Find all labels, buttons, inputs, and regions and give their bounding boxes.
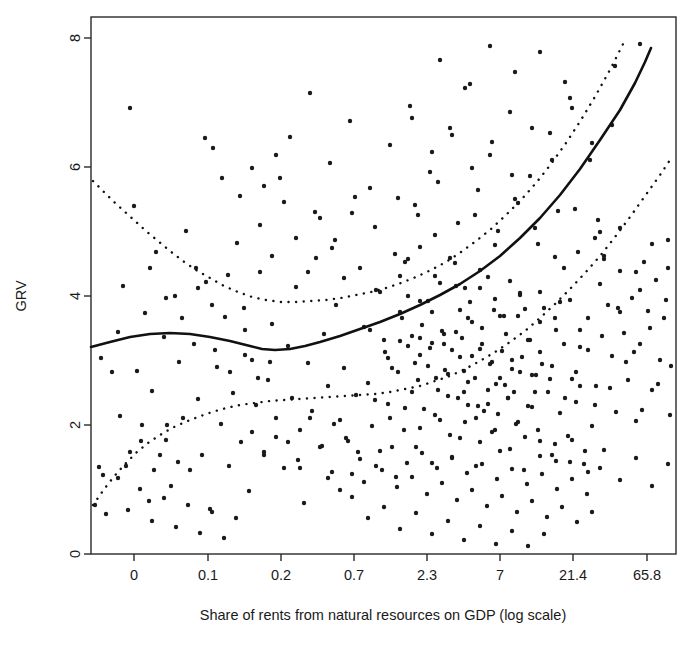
scatter-point [634,270,638,274]
scatter-point [413,361,417,365]
scatter-point [448,126,452,130]
scatter-point [538,50,542,54]
y-axis-title: GRV [13,280,29,311]
scatter-point [570,477,574,481]
y-axis-ticks [84,38,91,554]
scatter-point [147,499,151,503]
scatter-point [286,344,290,348]
scatter-point [192,342,196,346]
scatter-point [540,362,544,366]
scatter-point [513,70,517,74]
scatter-point [418,353,422,357]
scatter-point [342,366,346,370]
scatter-point [250,430,254,434]
scatter-point [486,402,490,406]
scatter-point [568,96,572,100]
scatter-point [590,424,594,428]
scatter-point [116,476,120,480]
scatter-point [420,451,424,455]
scatter-point [430,150,434,154]
scatter-point [548,131,552,135]
scatter-point [126,508,130,512]
scatter-point [512,390,516,394]
scatter-point [356,450,360,454]
scatter-point [442,342,446,346]
scatter-point [110,370,114,374]
scatter-point [408,104,412,108]
scatter-point [573,207,577,211]
scatter-point [500,494,504,498]
scatter-point [416,213,420,217]
scatter-point [624,360,628,364]
scatter-point [650,484,654,488]
scatter-point [646,309,650,313]
scatter-point [616,306,620,310]
scatter-point [650,242,654,246]
scatter-point [530,405,534,409]
scatter-point [138,487,142,491]
x-tick-label-65.8: 65.8 [633,567,661,583]
scatter-point [478,440,482,444]
scatter-point [640,408,644,412]
scatter-point [268,360,272,364]
scatter-point [463,420,467,424]
scatter-point [288,135,292,139]
scatter-point [465,471,469,475]
scatter-point [554,328,558,332]
scatter-point [333,238,337,242]
scatter-point [162,335,166,339]
scatter-point [440,481,444,485]
scatter-point [358,457,362,461]
scatter-point [570,438,574,442]
scatter-point [210,510,214,514]
scatter-point [393,252,397,256]
scatter-point [350,211,354,215]
scatter-point [294,285,298,289]
scatter-point [566,434,570,438]
scatter-point [563,396,567,400]
scatter-point [211,146,215,150]
scatter-point [430,532,434,536]
scatter-point [598,282,602,286]
x-tick-label-0.1: 0.1 [198,567,218,583]
scatter-point [528,174,532,178]
scatter-point [456,221,460,225]
scatter-point [227,464,231,468]
scatter-point [242,306,246,310]
scatter-point [428,170,432,174]
scatter-point [468,300,472,304]
scatter-point [526,404,530,408]
scatter-point [446,519,450,523]
scatter-point [298,428,302,432]
scatter-point [536,242,540,246]
scatter-point [494,542,498,546]
scatter-point [413,203,417,207]
scatter-point [450,456,454,460]
scatter-point [545,515,549,519]
scatter-point [458,308,462,312]
scatter-point [358,266,362,270]
scatter-point [654,278,658,282]
scatter-point [498,376,502,380]
scatter-point [298,466,302,470]
scatter-point [383,350,387,354]
scatter-point [553,316,557,320]
scatter-point [436,388,440,392]
scatter-point [493,428,497,432]
scatter-point [433,233,437,237]
scatter-point [574,400,578,404]
scatter-point [578,345,582,349]
scatter-point [632,350,636,354]
scatter-point [504,332,508,336]
scatter-point [490,360,494,364]
scatter-point [334,303,338,307]
scatter-point [666,238,670,242]
scatter-point [210,303,214,307]
scatter-point [256,376,260,380]
scatter-point [435,466,439,470]
scatter-point [318,216,322,220]
scatter-point [560,505,564,509]
scatter-point [410,116,414,120]
scatter-point [486,275,490,279]
scatter-point [386,356,390,360]
